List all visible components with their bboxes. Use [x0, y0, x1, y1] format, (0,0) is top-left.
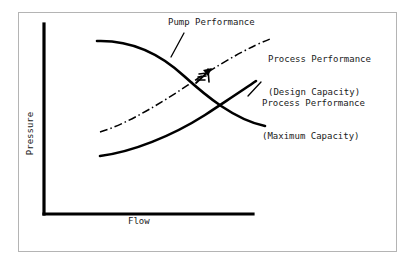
- design-capacity-label-line1: Process Performance: [268, 54, 371, 65]
- y-axis-label: Pressure: [25, 99, 36, 169]
- maximum-capacity-label-line2: (Maximum Capacity): [262, 131, 365, 142]
- operating-point-arrow-icon: [196, 68, 212, 83]
- maximum-capacity-label: Process Performance (Maximum Capacity): [262, 76, 365, 164]
- maximum-capacity-label-line1: Process Performance: [262, 98, 365, 109]
- x-axis-label: Flow: [128, 216, 150, 227]
- pump-performance-figure: Pump Performance Process Performance (De…: [0, 0, 414, 267]
- process-performance-maximum-curve: [100, 81, 256, 156]
- pump-performance-label: Pump Performance: [168, 17, 255, 28]
- pump-performance-leader-line: [171, 33, 184, 57]
